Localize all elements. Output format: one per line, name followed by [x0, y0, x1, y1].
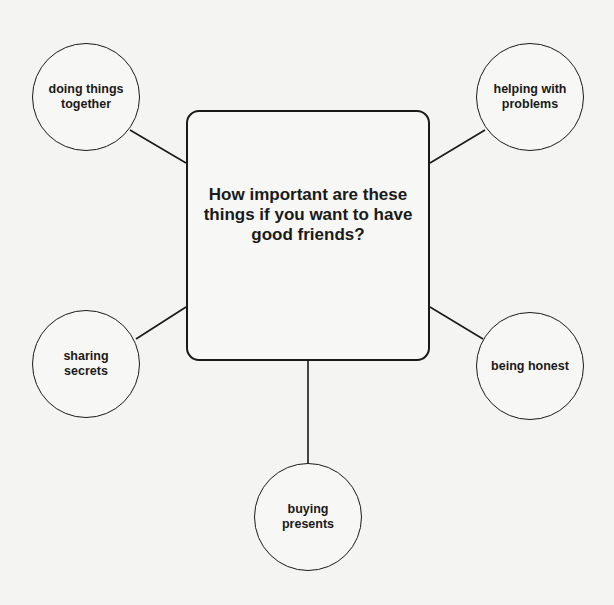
node-label: sharing secrets — [51, 349, 121, 379]
node-doing-things-together: doing things together — [32, 43, 140, 151]
node-sharing-secrets: sharing secrets — [32, 310, 140, 418]
connector-sharing-secrets — [136, 307, 186, 339]
connector-doing-things-together — [130, 130, 186, 163]
node-label: buying presents — [273, 502, 343, 532]
connector-being-honest — [430, 307, 483, 339]
node-buying-presents: buying presents — [254, 463, 362, 571]
connector-helping-with-problems — [430, 130, 485, 163]
node-label: helping with problems — [485, 82, 575, 112]
node-label: being honest — [485, 359, 575, 374]
central-question-box: How important are these things if you wa… — [186, 110, 430, 361]
node-helping-with-problems: helping with problems — [476, 43, 584, 151]
node-label: doing things together — [41, 82, 131, 112]
central-question-text: How important are these things if you wa… — [198, 185, 418, 245]
node-being-honest: being honest — [476, 312, 584, 420]
